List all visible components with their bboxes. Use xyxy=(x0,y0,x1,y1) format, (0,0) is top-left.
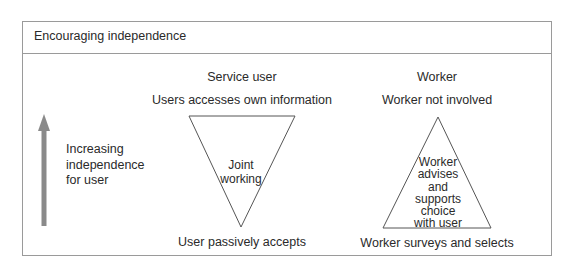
independence-axis-label: Increasing independence for user xyxy=(66,142,145,189)
service-user-bottom-label: User passively accepts xyxy=(178,235,306,249)
up-arrow-icon xyxy=(38,114,50,226)
service-user-top-label: Users accesses own information xyxy=(152,93,332,107)
triangle-label-line: advises xyxy=(414,168,462,180)
triangle-label-line: with user xyxy=(414,217,462,229)
axis-label-line: independence xyxy=(66,158,145,174)
triangle-label-line: working xyxy=(220,172,261,186)
axis-label-line: for user xyxy=(66,173,145,189)
worker-triangle-label: Worker advises and supports choice with … xyxy=(414,156,462,230)
service-user-heading: Service user xyxy=(207,70,276,84)
diagram-shapes xyxy=(0,0,573,269)
axis-label-line: Increasing xyxy=(66,142,145,158)
service-user-triangle-label: Joint working xyxy=(220,158,261,186)
worker-bottom-label: Worker surveys and selects xyxy=(360,236,513,250)
triangle-label-line: Joint xyxy=(220,158,261,172)
worker-heading: Worker xyxy=(417,70,457,84)
worker-top-label: Worker not involved xyxy=(382,93,492,107)
